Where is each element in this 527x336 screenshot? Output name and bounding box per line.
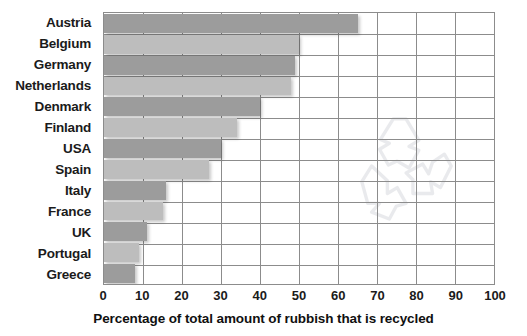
x-axis-tick-label: 0	[99, 288, 106, 303]
bar-row	[104, 242, 494, 263]
bar-row	[104, 55, 494, 76]
x-axis-tick-label: 60	[331, 288, 345, 303]
bar-row	[104, 263, 494, 284]
y-axis-label: Germany	[0, 54, 97, 75]
bar[interactable]	[104, 118, 237, 137]
y-axis-label: Italy	[0, 180, 97, 201]
x-axis-tick-label: 100	[484, 288, 506, 303]
bar[interactable]	[104, 56, 295, 75]
bar[interactable]	[104, 222, 147, 241]
bar[interactable]	[104, 35, 299, 54]
y-axis-label: Netherlands	[0, 75, 97, 96]
bar-series	[104, 13, 494, 284]
y-axis-label: UK	[0, 222, 97, 243]
bar-row	[104, 34, 494, 55]
bar-row	[104, 13, 494, 34]
bar-row	[104, 76, 494, 97]
x-axis-tick-label: 70	[370, 288, 384, 303]
bar-row	[104, 221, 494, 242]
bar[interactable]	[104, 14, 358, 33]
bar[interactable]	[104, 97, 260, 116]
x-axis-tick-label: 10	[135, 288, 149, 303]
plot-area	[103, 12, 495, 285]
bar[interactable]	[104, 264, 135, 283]
y-axis-label-list: AustriaBelgiumGermanyNetherlandsDenmarkF…	[0, 12, 97, 285]
x-axis-tick-label: 40	[253, 288, 267, 303]
bar[interactable]	[104, 160, 209, 179]
bar[interactable]	[104, 139, 221, 158]
y-axis-label: Finland	[0, 117, 97, 138]
bar-row	[104, 201, 494, 222]
y-axis-label: Greece	[0, 264, 97, 285]
y-axis-label: Spain	[0, 159, 97, 180]
y-axis-label: Denmark	[0, 96, 97, 117]
x-axis-tick-label: 80	[409, 288, 423, 303]
bar-row	[104, 180, 494, 201]
bar[interactable]	[104, 77, 291, 96]
y-axis-label: France	[0, 201, 97, 222]
y-axis-label: Austria	[0, 12, 97, 33]
x-axis-tick-list: 0102030405060708090100	[103, 288, 495, 306]
bar-row	[104, 138, 494, 159]
bar[interactable]	[104, 243, 139, 262]
y-axis-label: Portugal	[0, 243, 97, 264]
recycling-bar-chart: AustriaBelgiumGermanyNetherlandsDenmarkF…	[0, 0, 527, 336]
x-axis-tick-label: 30	[213, 288, 227, 303]
x-axis-tick-label: 20	[174, 288, 188, 303]
y-axis-label: USA	[0, 138, 97, 159]
bar[interactable]	[104, 181, 166, 200]
bar[interactable]	[104, 202, 163, 221]
bar-row	[104, 117, 494, 138]
x-axis-tick-label: 50	[292, 288, 306, 303]
x-axis-tick-label: 90	[449, 288, 463, 303]
x-axis-title: Percentage of total amount of rubbish th…	[0, 311, 527, 326]
bar-row	[104, 96, 494, 117]
y-axis-label: Belgium	[0, 33, 97, 54]
bar-row	[104, 159, 494, 180]
